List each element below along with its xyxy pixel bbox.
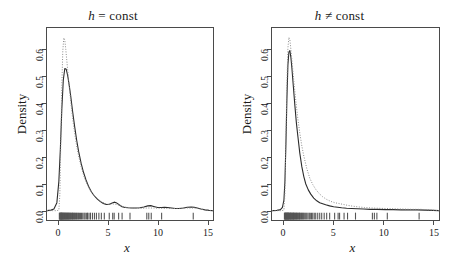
x-tick-mark bbox=[283, 221, 284, 225]
x-tick-label: 10 bbox=[146, 227, 170, 238]
panel-right-x-axis-label: x bbox=[239, 240, 453, 256]
x-tick-label: 0 bbox=[46, 227, 70, 238]
panel-left-x-axis-label: x bbox=[14, 240, 240, 256]
x-tick-mark bbox=[333, 221, 334, 225]
panel-right-title: h ≠ const bbox=[226, 8, 453, 24]
panel-right-plot-area bbox=[271, 27, 440, 221]
panel-left-title: h = const bbox=[0, 8, 226, 24]
x-tick-label: 15 bbox=[422, 227, 446, 238]
y-tick-label: 0.5 bbox=[260, 76, 270, 92]
figure-container: h = const Density x 0.00.10.20.30.40.50.… bbox=[0, 0, 453, 259]
y-tick-label: 0.1 bbox=[260, 184, 270, 200]
y-tick-label: 0.0 bbox=[260, 211, 270, 227]
series-adaptive-kernel-estimate-solid bbox=[272, 51, 439, 211]
panel-right: h ≠ const Density x 0.00.10.20.30.40.50.… bbox=[226, 0, 453, 259]
y-tick-label: 0.3 bbox=[260, 130, 270, 146]
y-tick-label: 0.1 bbox=[35, 184, 45, 200]
x-tick-mark bbox=[158, 221, 159, 225]
y-tick-label: 0.4 bbox=[35, 103, 45, 119]
x-tick-mark bbox=[58, 221, 59, 225]
y-tick-label: 0.4 bbox=[260, 103, 270, 119]
panel-right-title-symbol: h bbox=[315, 8, 322, 23]
y-tick-label: 0.0 bbox=[35, 211, 45, 227]
x-tick-mark bbox=[433, 221, 434, 225]
panel-right-title-word: const bbox=[336, 8, 364, 23]
x-tick-label: 5 bbox=[321, 227, 345, 238]
x-tick-mark bbox=[383, 221, 384, 225]
y-tick-label: 0.2 bbox=[35, 157, 45, 173]
panel-left-plot-area bbox=[46, 27, 214, 221]
panel-right-y-axis-label: Density bbox=[239, 84, 255, 144]
x-tick-mark bbox=[108, 221, 109, 225]
panel-right-title-relation: ≠ bbox=[325, 8, 332, 23]
panel-left: h = const Density x 0.00.10.20.30.40.50.… bbox=[0, 0, 226, 259]
panel-left-y-axis-label: Density bbox=[14, 84, 30, 144]
x-tick-label: 0 bbox=[271, 227, 295, 238]
y-tick-label: 0.6 bbox=[260, 49, 270, 65]
x-tick-label: 15 bbox=[196, 227, 220, 238]
panel-left-title-relation: = bbox=[98, 8, 106, 23]
panel-left-title-word: const bbox=[109, 8, 137, 23]
y-tick-label: 0.6 bbox=[35, 49, 45, 65]
panel-left-title-symbol: h bbox=[88, 8, 95, 23]
x-tick-label: 5 bbox=[96, 227, 120, 238]
panel-right-plot-svg bbox=[272, 28, 439, 220]
panel-left-plot-svg bbox=[47, 28, 213, 220]
x-tick-label: 10 bbox=[372, 227, 396, 238]
series-kernel-estimate-solid bbox=[47, 69, 213, 211]
y-tick-label: 0.3 bbox=[35, 130, 45, 146]
rug-plot bbox=[59, 213, 193, 220]
series-reference-density-dotted bbox=[47, 38, 213, 211]
x-tick-mark bbox=[208, 221, 209, 225]
y-tick-label: 0.2 bbox=[260, 157, 270, 173]
y-tick-label: 0.5 bbox=[35, 76, 45, 92]
rug-plot bbox=[284, 213, 419, 220]
